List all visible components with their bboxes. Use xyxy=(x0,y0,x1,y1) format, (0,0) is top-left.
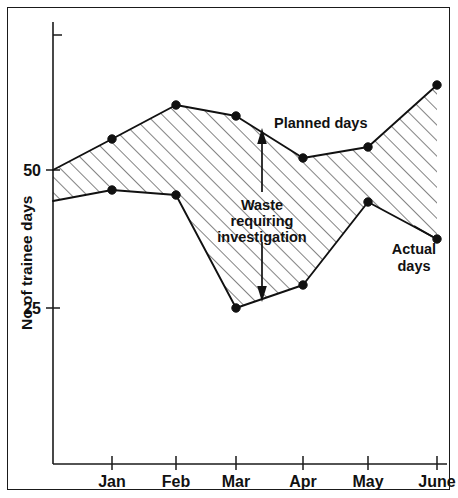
x-tick-label-apr: Apr xyxy=(289,473,317,490)
waste-label-line-2: requiring xyxy=(231,213,294,229)
x-tick-label-may: May xyxy=(352,473,383,490)
x-tick-label-jan: Jan xyxy=(98,473,126,490)
planned-days-label: Planned days xyxy=(274,115,367,131)
actual-days-label-line-1: Actual xyxy=(392,241,436,257)
trainee-days-line-chart: No of trainee days 50 25 Jan Feb Mar Apr… xyxy=(0,0,458,498)
x-tick-label-mar: Mar xyxy=(222,473,250,490)
x-tick-label-feb: Feb xyxy=(162,473,191,490)
x-tick-label-june: June xyxy=(418,473,455,490)
waste-label-line-1: Waste xyxy=(241,197,283,213)
waste-label-line-3: investigation xyxy=(217,229,306,245)
chart-page: No of trainee days 50 25 Jan Feb Mar Apr… xyxy=(0,0,458,498)
actual-days-label-line-2: days xyxy=(397,258,430,274)
y-tick-label-50: 50 xyxy=(23,162,41,179)
y-tick-label-25: 25 xyxy=(23,300,41,317)
